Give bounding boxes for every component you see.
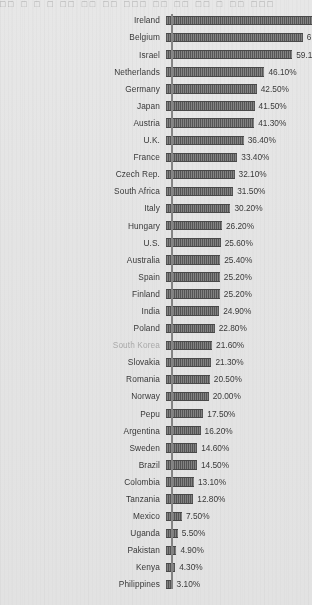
bar-value-label: 5.50%: [182, 529, 206, 537]
category-label: Mexico: [0, 512, 166, 520]
category-label: Tanzania: [0, 495, 166, 503]
bar-zone: 42.50%: [166, 80, 312, 97]
bar-zone: 32.10%: [166, 166, 312, 183]
bar-zone: 13.10%: [166, 474, 312, 491]
bar-value-label: 14.60%: [201, 444, 229, 452]
bar-value-label: 21.30%: [215, 358, 243, 366]
value-axis-line: [171, 14, 173, 589]
bar-zone: 46.10%: [166, 63, 312, 80]
bar-value-label: 24.90%: [223, 307, 251, 315]
category-label: Austria: [0, 119, 166, 127]
bar-zone: 30.20%: [166, 200, 312, 217]
bar-zone: 25.40%: [166, 251, 312, 268]
bar-row: South Korea21.60%: [0, 337, 312, 354]
bar-row: Ireland: [0, 12, 312, 29]
bar-value-label: 36.40%: [248, 136, 276, 144]
bar-row: France33.40%: [0, 149, 312, 166]
bar-value-label: 13.10%: [198, 478, 226, 486]
category-label: Norway: [0, 392, 166, 400]
bar-value-label: 25.40%: [224, 256, 252, 264]
category-label: Netherlands: [0, 68, 166, 76]
bar-row: South Africa31.50%: [0, 183, 312, 200]
bar: [166, 187, 233, 196]
bar-zone: 41.30%: [166, 115, 312, 132]
bar-zone: 14.60%: [166, 439, 312, 456]
bar-row: Australia25.40%: [0, 251, 312, 268]
bar-row: Spain25.20%: [0, 268, 312, 285]
bar: [166, 221, 222, 230]
category-label: France: [0, 153, 166, 161]
bar-row: India24.90%: [0, 303, 312, 320]
bar-row: Philippines3.10%: [0, 576, 312, 593]
bar: [166, 118, 254, 127]
bar-row: Hungary26.20%: [0, 217, 312, 234]
bar-row: Pepu17.50%: [0, 405, 312, 422]
bar-zone: 7.50%: [166, 508, 312, 525]
bar-zone: 41.50%: [166, 97, 312, 114]
bar-zone: [166, 12, 312, 29]
bar-row: Slovakia21.30%: [0, 354, 312, 371]
bar: [166, 50, 292, 59]
bar-value-label: 16.20%: [205, 427, 233, 435]
category-label: Italy: [0, 204, 166, 212]
category-label: Pepu: [0, 410, 166, 418]
category-label: U.S.: [0, 239, 166, 247]
category-label: Romania: [0, 375, 166, 383]
bar-row: Germany42.50%: [0, 80, 312, 97]
category-label: U.K.: [0, 136, 166, 144]
category-label: Pakistan: [0, 546, 166, 554]
bar-zone: 12.80%: [166, 491, 312, 508]
bar-value-label: 25.20%: [224, 290, 252, 298]
bar: [166, 84, 257, 93]
category-label: Czech Rep.: [0, 170, 166, 178]
bar-zone: 20.50%: [166, 371, 312, 388]
bar: [166, 324, 215, 333]
bar-zone: 25.20%: [166, 268, 312, 285]
bar-value-label: 41.30%: [258, 119, 286, 127]
bar-row: Mexico7.50%: [0, 508, 312, 525]
category-label: Philippines: [0, 580, 166, 588]
bar: [166, 16, 312, 25]
category-label: Hungary: [0, 222, 166, 230]
bar-value-label: 17.50%: [207, 410, 235, 418]
bar: [166, 512, 182, 521]
bar-zone: 4.30%: [166, 559, 312, 576]
bar-row: Israel59.10%: [0, 46, 312, 63]
bar-row: Austria41.30%: [0, 115, 312, 132]
category-label: Australia: [0, 256, 166, 264]
bar: [166, 136, 244, 145]
bar-value-label: 4.90%: [180, 546, 204, 554]
bar-value-label: 6: [307, 33, 312, 41]
bar-row: Italy30.20%: [0, 200, 312, 217]
bar-row: U.K.36.40%: [0, 132, 312, 149]
bar-row: Belgium6: [0, 29, 312, 46]
bar-row: U.S.25.60%: [0, 234, 312, 251]
bar-value-label: 41.50%: [259, 102, 287, 110]
bar-value-label: 30.20%: [234, 204, 262, 212]
bar-zone: 20.00%: [166, 388, 312, 405]
bar-zone: 16.20%: [166, 422, 312, 439]
bar-zone: 6: [166, 29, 312, 46]
bar-row: Norway20.00%: [0, 388, 312, 405]
bar-zone: 17.50%: [166, 405, 312, 422]
bar: [166, 255, 220, 264]
category-label: Kenya: [0, 563, 166, 571]
bar-value-label: 20.00%: [213, 392, 241, 400]
bar-row: Poland22.80%: [0, 320, 312, 337]
bar-zone: 22.80%: [166, 320, 312, 337]
bar-row: Finland25.20%: [0, 286, 312, 303]
category-label: Belgium: [0, 33, 166, 41]
bar-row: Pakistan4.90%: [0, 542, 312, 559]
category-label: Slovakia: [0, 358, 166, 366]
category-label: Uganda: [0, 529, 166, 537]
bar-row: Uganda5.50%: [0, 525, 312, 542]
bar-zone: 3.10%: [166, 576, 312, 593]
bar-zone: 31.50%: [166, 183, 312, 200]
clipped-header-text: □□ □ □ □ □□ □□ □□ □□□ □□ □□ □□ □ □□ □□□: [0, 0, 312, 9]
bar-value-label: 20.50%: [214, 375, 242, 383]
category-label: Brazil: [0, 461, 166, 469]
category-label: Ireland: [0, 16, 166, 24]
category-label: Spain: [0, 273, 166, 281]
category-label: Japan: [0, 102, 166, 110]
category-label: Poland: [0, 324, 166, 332]
